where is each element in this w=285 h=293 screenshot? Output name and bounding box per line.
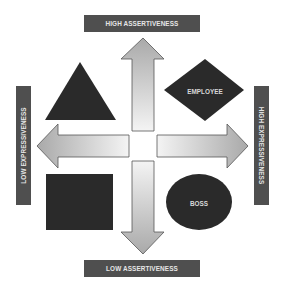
axis-label-high-assertiveness: HIGH ASSERTIVENESS [84,15,200,32]
axis-label-text: LOW EXPRESSIVENESS [20,107,27,183]
boss-label: BOSS [190,200,208,207]
triangle-shape-icon [45,62,116,120]
square-shape-icon [46,174,113,230]
arrow-left-icon [37,124,129,168]
axis-label-low-assertiveness: LOW ASSERTIVENESS [84,260,200,277]
diagram-canvas: HIGH ASSERTIVENESS LOW ASSERTIVENESS LOW… [0,0,285,293]
axis-label-text: HIGH ASSERTIVENESS [106,20,179,27]
axis-label-text: HIGH EXPRESSIVENESS [258,107,265,185]
axis-label-high-expressiveness: HIGH EXPRESSIVENESS [254,86,269,205]
arrow-down-icon [121,161,164,254]
employee-label: EMPLOYEE [187,88,223,95]
axis-label-low-expressiveness: LOW EXPRESSIVENESS [16,86,31,205]
axis-label-text: LOW ASSERTIVENESS [106,265,178,272]
arrow-right-icon [157,124,248,168]
diagram-graphics [0,0,285,293]
arrow-up-icon [121,38,164,131]
